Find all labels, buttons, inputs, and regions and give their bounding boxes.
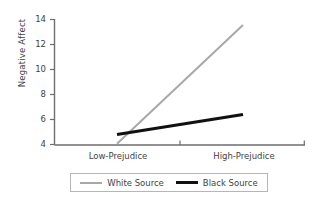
y-tick-label-8: 8 [26, 90, 46, 99]
y-tick-label-6: 6 [26, 115, 46, 124]
black-line-swatch-icon [176, 181, 198, 184]
legend-entry-white-source: White Source [80, 178, 164, 188]
x-tick-label-low-prejudice: Low-Prejudice [74, 152, 162, 161]
x-tick-label-high-prejudice: High-Prejudice [198, 152, 290, 161]
y-tick-label-14: 14 [26, 15, 46, 24]
gray-line-swatch-icon [80, 182, 102, 184]
y-tick-label-4: 4 [26, 140, 46, 149]
chart-legend: White Source Black Source [70, 173, 268, 192]
chart-figure: Negative Affect 14 12 10 8 [0, 0, 321, 200]
plot-svg [0, 0, 321, 162]
series-line-black-source [117, 115, 243, 135]
y-tick-label-10: 10 [26, 65, 46, 74]
legend-label-black-source: Black Source [203, 178, 258, 188]
plot-area: 14 12 10 8 6 4 [0, 0, 321, 162]
y-tick-label-12: 12 [26, 40, 46, 49]
legend-entry-black-source: Black Source [176, 178, 258, 188]
legend-label-white-source: White Source [107, 178, 164, 188]
